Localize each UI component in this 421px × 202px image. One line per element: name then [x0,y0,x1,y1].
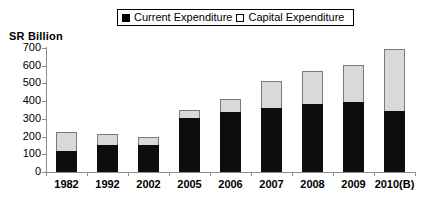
y-axis-tick-label: 100 [23,147,41,159]
y-axis-tick-label: 500 [23,76,41,88]
legend-swatch-open-square-icon [236,14,244,22]
y-axis-tick-label: 400 [23,94,41,106]
x-axis-tick-mark [415,172,416,176]
x-axis-tick-mark [251,172,252,176]
bar-segment-current-expenditure[interactable] [179,118,200,172]
x-axis-tick-mark [210,172,211,176]
x-axis-tick-label: 2007 [259,178,283,190]
plot-area: 0100200300400500600700 [46,48,415,172]
x-axis-tick-label: 1982 [54,178,78,190]
bar-stack[interactable] [97,134,118,172]
bar-stack[interactable] [343,65,364,172]
bar-stack[interactable] [384,49,405,172]
x-axis-line [46,172,416,173]
x-axis-tick-label: 2002 [136,178,160,190]
bar-segment-capital-expenditure[interactable] [220,99,241,111]
x-axis-tick-label: 2006 [218,178,242,190]
bar-segment-capital-expenditure[interactable] [138,137,159,145]
x-axis-tick-mark [333,172,334,176]
x-axis-tick-mark [374,172,375,176]
y-axis-tick-label: 200 [23,130,41,142]
bar-segment-capital-expenditure[interactable] [56,132,77,151]
y-axis-tick-label: 0 [35,165,41,177]
bar-segment-capital-expenditure[interactable] [343,65,364,102]
x-axis-tick-mark [128,172,129,176]
bar-segment-current-expenditure[interactable] [384,111,405,172]
bar-stack[interactable] [138,137,159,172]
chart-legend: Current Expenditure Capital Expenditure [117,9,354,26]
x-axis-tick-mark [292,172,293,176]
bar-stack[interactable] [179,110,200,172]
y-axis-tick-label: 300 [23,112,41,124]
x-axis-tick-label: 1992 [95,178,119,190]
x-axis-tick-mark [169,172,170,176]
bar-stack[interactable] [56,132,77,172]
x-axis-tick-label: 2005 [177,178,201,190]
y-axis-tick-label: 700 [23,41,41,53]
bars-layer [46,48,415,172]
legend-swatch-filled-square-icon [122,14,130,22]
bar-segment-current-expenditure[interactable] [97,145,118,172]
bar-segment-capital-expenditure[interactable] [179,110,200,118]
bar-segment-capital-expenditure[interactable] [261,81,282,108]
legend-item-current-expenditure: Current Expenditure [122,12,236,23]
bar-segment-capital-expenditure[interactable] [384,49,405,111]
y-axis-tick-label: 600 [23,59,41,71]
bar-segment-current-expenditure[interactable] [56,151,77,172]
bar-segment-current-expenditure[interactable] [302,104,323,172]
legend-label-capital-expenditure: Capital Expenditure [248,12,344,23]
x-axis-tick-label: 2010(B) [375,178,415,190]
bar-segment-current-expenditure[interactable] [261,108,282,172]
x-axis-tick-label: 2008 [300,178,324,190]
x-axis-tick-mark [46,172,47,176]
expenditure-bar-chart: Current Expenditure Capital Expenditure … [0,0,421,202]
legend-item-capital-expenditure: Capital Expenditure [236,12,348,23]
bar-stack[interactable] [261,81,282,172]
bar-segment-current-expenditure[interactable] [220,112,241,172]
bar-stack[interactable] [302,71,323,172]
x-axis-labels: 198219922002200520062007200820092010(B) [46,176,416,194]
legend-label-current-expenditure: Current Expenditure [134,12,232,23]
bar-segment-current-expenditure[interactable] [343,102,364,172]
bar-segment-capital-expenditure[interactable] [302,71,323,105]
x-axis-tick-label: 2009 [341,178,365,190]
bar-segment-current-expenditure[interactable] [138,145,159,172]
bar-stack[interactable] [220,99,241,172]
x-axis-tick-mark [87,172,88,176]
bar-segment-capital-expenditure[interactable] [97,134,118,145]
